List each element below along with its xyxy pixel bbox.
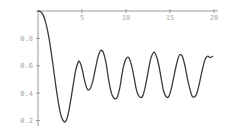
data-curve [38,11,213,122]
y-tick-label: 0.6 [20,62,33,70]
x-tick-label: 10 [122,14,130,22]
x-tick-label: 20 [210,14,218,22]
y-tick-label: 0.2 [20,117,33,125]
x-tick-label: 15 [166,14,174,22]
y-tick-label: 0.4 [20,90,33,98]
y-tick-label: 0.8 [20,35,33,43]
y-ticks: 0.20.40.60.8 [20,35,40,125]
line-chart: 5101520 0.20.40.60.8 [0,0,235,133]
x-tick-label: 5 [80,14,84,22]
